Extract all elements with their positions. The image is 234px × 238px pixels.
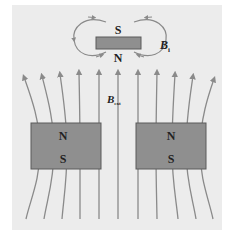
loop-right-arrow — [146, 17, 152, 18]
right-magnet-top-pole: N — [167, 129, 176, 143]
loop-left-arrow — [88, 17, 94, 18]
magnetic-field-diagram: S N Bi N S N S Bext — [0, 0, 234, 238]
small-magnet-bottom-pole: N — [114, 51, 123, 65]
left-magnet-bottom-pole: S — [60, 152, 67, 166]
small-magnet — [96, 37, 141, 49]
small-magnet-top-pole: S — [115, 23, 122, 37]
left-magnet-top-pole: N — [59, 129, 68, 143]
diagram-svg: S N Bi N S N S Bext — [0, 0, 234, 238]
right-magnet-bottom-pole: S — [168, 152, 175, 166]
